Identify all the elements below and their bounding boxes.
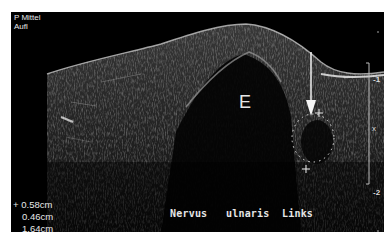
preset-line-2: Aufl xyxy=(14,22,41,31)
depth-tick-2: -2 xyxy=(373,188,380,197)
focus-marker: x xyxy=(372,124,376,133)
measurement-2: 0.46cm xyxy=(13,211,53,223)
image-caption: Nervus ulnaris Links xyxy=(170,208,313,219)
depth-tick-1: -1 xyxy=(373,75,380,84)
measurement-3: 1.64cm xyxy=(13,223,53,232)
preset-header: P Mittel Aufl xyxy=(14,13,41,31)
image-label-E: E xyxy=(239,92,251,113)
ultrasound-image-panel: P Mittel Aufl E -1 x -2 + 0.58cm 0.46cm … xyxy=(11,12,384,232)
preset-line-1: P Mittel xyxy=(14,13,41,22)
tissue-region xyxy=(11,12,384,232)
measurement-1: + 0.58cm xyxy=(13,199,53,211)
ultrasound-scan xyxy=(11,12,384,232)
measurement-readout: + 0.58cm 0.46cm 1.64cm xyxy=(13,199,53,232)
caliper-symbol: + xyxy=(13,199,19,210)
